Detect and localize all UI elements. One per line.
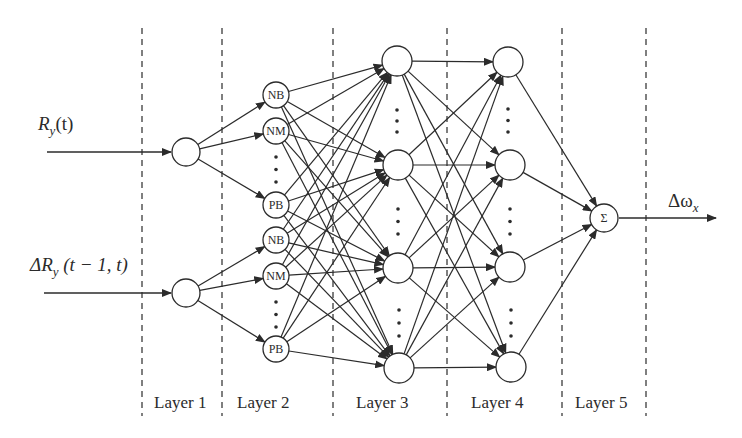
sum-node: Σ — [590, 204, 618, 232]
svg-text:PB: PB — [269, 198, 284, 212]
layer3-node-4 — [384, 353, 414, 383]
layer3-node-2 — [383, 150, 413, 180]
layer2-node-nb-4: NB — [263, 227, 289, 253]
layer1-node-1 — [172, 138, 200, 166]
layer2-node-pb-3: PB — [263, 192, 289, 218]
layer4-node-1 — [493, 47, 523, 77]
layer2-node-nb-1: NB — [263, 82, 289, 108]
layer-label-2: Layer 2 — [237, 393, 289, 413]
layer3-node-1 — [382, 46, 412, 76]
layer1-node-2 — [172, 279, 200, 307]
layer4-node-2 — [495, 150, 525, 180]
layer-label-4: Layer 4 — [471, 393, 523, 413]
layer4-node-4 — [496, 352, 526, 382]
svg-text:NB: NB — [268, 233, 285, 247]
input-label-delta-ry: ΔRy (t − 1, t) — [30, 254, 128, 280]
connections — [198, 61, 597, 368]
layer3-node-3 — [383, 253, 413, 283]
layer-label-5: Layer 5 — [575, 393, 627, 413]
fuzzy-neural-network-diagram: NBNMPBNBNMPBΣ Ry(t) ΔRy (t − 1, t) Δωx L… — [0, 0, 742, 438]
layer2-node-nm-2: NM — [263, 118, 289, 144]
svg-text:NM: NM — [266, 269, 286, 283]
svg-text:PB: PB — [269, 342, 284, 356]
layer-label-3: Layer 3 — [356, 393, 408, 413]
svg-text:Σ: Σ — [601, 211, 608, 225]
svg-text:NB: NB — [268, 88, 285, 102]
layer2-node-nm-5: NM — [263, 263, 289, 289]
layer2-node-pb-6: PB — [263, 336, 289, 362]
network-graph: NBNMPBNBNMPBΣ — [0, 0, 742, 438]
svg-text:NM: NM — [266, 124, 286, 138]
layer4-node-3 — [495, 252, 525, 282]
nodes: NBNMPBNBNMPBΣ — [172, 46, 618, 383]
input-label-ry: Ry(t) — [38, 113, 73, 139]
layer-label-1: Layer 1 — [154, 393, 206, 413]
output-label: Δωx — [668, 190, 699, 216]
